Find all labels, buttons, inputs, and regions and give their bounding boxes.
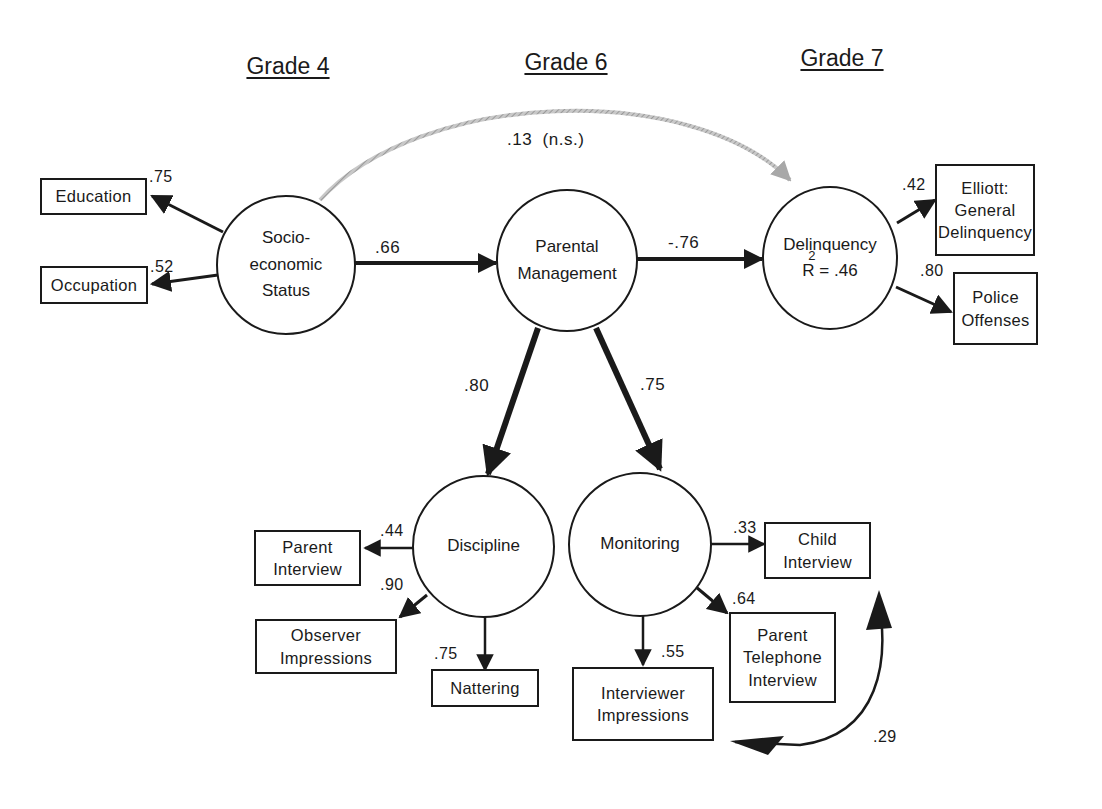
node-label-line: Delinquency	[783, 232, 877, 258]
indicator-elliott-general-delinquency: Elliott: General Delinquency	[935, 164, 1035, 256]
indicator-interviewer-impressions: Interviewer Impressions	[572, 667, 714, 741]
node-parental-management: Parental Management	[496, 189, 638, 332]
node-label-line: Management	[517, 261, 616, 287]
node-label-line: Socio-	[262, 225, 310, 251]
node-socioeconomic-status: Socio- economic Status	[216, 195, 356, 335]
coef-police: .80	[920, 262, 944, 280]
indicator-label: Education	[55, 185, 131, 207]
indicator-label: Interview	[783, 551, 852, 573]
path-delinquency-to-police	[896, 287, 951, 312]
arrowhead-up-icon	[866, 590, 892, 630]
coef-pm-discipline: .80	[464, 376, 489, 396]
indicator-label: Parent	[757, 624, 807, 646]
node-delinquency: Delinquency R2 = .46	[762, 186, 898, 330]
indicator-observer-impressions: Observer Impressions	[255, 619, 397, 674]
indicator-label: Interview	[748, 669, 817, 691]
arrowhead-left-icon	[730, 736, 784, 755]
grade-6-header: Grade 6	[524, 49, 607, 76]
coef-parent-telephone: .64	[732, 590, 756, 608]
coef-observer: .90	[380, 576, 404, 594]
coef-pm-delinquency: -.76	[668, 233, 699, 253]
grade-4-header: Grade 4	[246, 53, 329, 80]
coef-ses-pm: .66	[375, 238, 400, 258]
indicator-label: Observer	[291, 624, 361, 646]
indicator-child-interview: Child Interview	[764, 522, 871, 579]
indicator-label: Elliott:	[961, 177, 1008, 199]
path-monitoring-to-parent-telephone	[696, 587, 727, 613]
indicator-label: Impressions	[280, 647, 372, 669]
indicator-police-offenses: Police Offenses	[953, 272, 1038, 345]
r-squared-value: = .46	[815, 261, 858, 280]
coef-pm-monitoring: .75	[640, 375, 665, 395]
coef-parent-interview: .44	[380, 522, 404, 540]
node-label-line: economic	[250, 252, 323, 278]
coef-occupation: .52	[150, 258, 174, 276]
indicator-education: Education	[40, 178, 147, 215]
node-discipline: Discipline	[412, 475, 555, 618]
path-discipline-to-observer	[400, 595, 427, 617]
indicator-label: Delinquency	[938, 221, 1032, 243]
node-label-line: Status	[262, 278, 310, 304]
node-label-line: Parental	[535, 234, 598, 260]
path-delinquency-to-elliott	[897, 200, 935, 223]
coef-correlated-error: .29	[873, 728, 897, 746]
indicator-label: Police	[972, 286, 1019, 308]
coef-ses-delinquency-ns: .13 (n.s.)	[507, 130, 584, 150]
indicator-label: Occupation	[51, 274, 137, 296]
indicator-nattering: Nattering	[431, 669, 539, 707]
indicator-label: Parent	[282, 536, 332, 558]
indicator-label: General	[955, 199, 1016, 221]
node-monitoring: Monitoring	[568, 472, 712, 617]
indicator-label: Interviewer	[601, 682, 685, 704]
node-label-line: Discipline	[447, 533, 520, 559]
indicator-label: Nattering	[450, 677, 520, 699]
indicator-parent-telephone-interview: Parent Telephone Interview	[729, 612, 836, 703]
coef-child-interview: .33	[733, 519, 757, 537]
path-ses-to-occupation	[152, 275, 218, 284]
path-pm-to-discipline	[488, 328, 538, 474]
indicator-label: Impressions	[597, 704, 689, 726]
path-ses-to-education	[152, 196, 223, 232]
coef-interviewer: .55	[661, 643, 685, 661]
path-arrows-layer	[0, 0, 1102, 809]
path-ses-to-delinquency-ns	[320, 111, 790, 200]
indicator-label: Child	[798, 528, 837, 550]
grade-7-header: Grade 7	[800, 45, 883, 72]
indicator-label: Telephone	[743, 646, 822, 668]
indicator-label: Interview	[273, 558, 342, 580]
path-pm-to-monitoring	[596, 328, 660, 469]
path-diagram: Grade 4 Grade 6 Grade 7 Socio- economic …	[0, 0, 1102, 809]
indicator-parent-interview: Parent Interview	[254, 530, 361, 586]
coef-education: .75	[149, 168, 173, 186]
r-squared-label: R2 = .46	[802, 258, 857, 284]
coef-elliott: .42	[902, 176, 926, 194]
indicator-label: Offenses	[961, 309, 1029, 331]
coef-nattering: .75	[434, 645, 458, 663]
node-label-line: Monitoring	[600, 531, 679, 557]
indicator-occupation: Occupation	[40, 266, 148, 304]
r-exponent: 2	[808, 246, 815, 266]
